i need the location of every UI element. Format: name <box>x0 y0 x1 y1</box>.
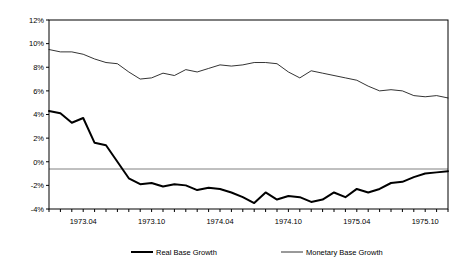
x-axis-tick-label: 1973.10 <box>138 217 165 226</box>
chart-legend: Real Base GrowthMonetary Base Growth <box>131 248 383 257</box>
y-axis-tick-label: 8% <box>33 63 44 72</box>
x-axis-tick-label: 1973.04 <box>70 217 97 226</box>
legend-label-0: Real Base Growth <box>156 248 217 257</box>
series-line-1 <box>49 50 448 98</box>
chart-container: 12%10%8%6%4%2%0%-2%-4% 1973.041973.10197… <box>0 0 459 269</box>
series-line-0 <box>49 111 448 203</box>
legend-label-1: Monetary Base Growth <box>306 248 383 257</box>
y-axis-tick-label: 6% <box>33 87 44 96</box>
x-axis-tick-label: 1974.10 <box>275 217 302 226</box>
x-axis-tick-label: 1975.10 <box>412 217 439 226</box>
y-axis-tick-label: 12% <box>29 16 44 25</box>
x-axis-tick-labels: 1973.041973.101974.041974.101975.041975.… <box>70 217 439 226</box>
data-series-group <box>49 50 448 204</box>
y-axis-tick-label: 10% <box>29 39 44 48</box>
y-axis-tick-labels: 12%10%8%6%4%2%0%-2%-4% <box>29 16 44 214</box>
x-axis-tick-label: 1975.04 <box>343 217 370 226</box>
y-axis-tick-label: 4% <box>33 110 44 119</box>
line-chart: 12%10%8%6%4%2%0%-2%-4% 1973.041973.10197… <box>0 0 459 269</box>
y-axis-tick-label: -4% <box>31 205 45 214</box>
x-axis-tick-label: 1974.04 <box>206 217 233 226</box>
plot-area-border <box>49 20 448 209</box>
y-axis-tick-label: 2% <box>33 134 44 143</box>
y-axis-tick-label: 0% <box>33 158 44 167</box>
y-axis-tick-label: -2% <box>31 181 45 190</box>
